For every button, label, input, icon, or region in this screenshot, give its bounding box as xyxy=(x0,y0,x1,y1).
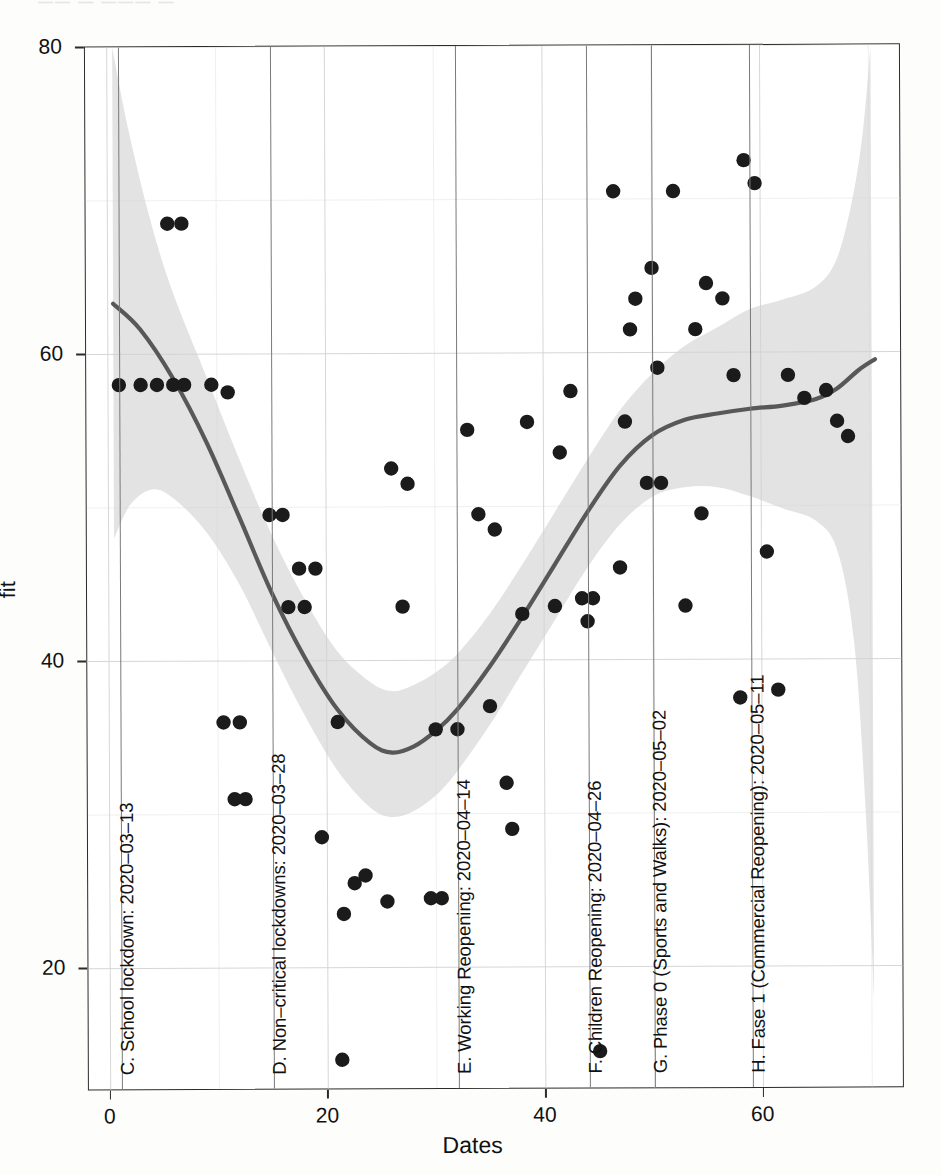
data-point xyxy=(797,391,811,405)
data-point xyxy=(380,894,394,908)
data-point xyxy=(819,383,833,397)
data-point xyxy=(384,461,398,475)
data-point xyxy=(483,699,497,713)
data-point xyxy=(488,522,502,536)
plot-area: C. School lockdown: 2020–03–13D. Non–cri… xyxy=(85,44,903,1089)
plot-svg xyxy=(85,44,903,1089)
data-point xyxy=(666,184,680,198)
chart-figure: fit Dates 20406080 0204060 C. School loc… xyxy=(0,0,941,1175)
data-points-layer xyxy=(111,152,858,1067)
data-point xyxy=(177,378,191,392)
y-tick-label: 20 xyxy=(19,956,65,980)
event-label-h: H. Fase 1 (Commercial Reopening): 2020–0… xyxy=(746,674,770,1072)
data-point xyxy=(460,423,474,437)
gridline-minor-vertical xyxy=(215,47,219,1089)
data-point xyxy=(678,598,692,612)
data-point xyxy=(233,715,247,729)
data-point xyxy=(160,216,174,230)
data-point xyxy=(220,385,234,399)
data-point xyxy=(606,184,620,198)
x-tick-label: 60 xyxy=(751,1102,774,1126)
data-point xyxy=(613,560,627,574)
x-tick-mark xyxy=(763,1088,765,1097)
y-tick-mark xyxy=(77,661,86,663)
data-point xyxy=(435,891,449,905)
y-tick-label: 40 xyxy=(18,649,64,673)
data-point xyxy=(331,715,345,729)
event-label-f: F. Children Reopening: 2020–04–26 xyxy=(583,781,606,1074)
y-tick-label: 60 xyxy=(17,342,63,366)
y-tick-mark xyxy=(76,354,85,356)
data-point xyxy=(548,599,562,613)
x-axis-title: Dates xyxy=(2,1130,941,1161)
x-tick-mark xyxy=(545,1089,547,1098)
gridline-major-vertical xyxy=(324,47,328,1090)
data-point xyxy=(395,599,409,613)
data-point xyxy=(623,322,637,336)
gridline-minor-vertical xyxy=(433,46,437,1089)
event-label-c: C. School lockdown: 2020–03–13 xyxy=(115,803,138,1076)
data-point xyxy=(563,384,577,398)
data-point xyxy=(262,508,276,522)
data-point xyxy=(238,792,252,806)
data-point xyxy=(308,561,322,575)
data-point xyxy=(335,1053,349,1067)
data-point xyxy=(771,682,785,696)
data-point xyxy=(400,477,414,491)
data-point xyxy=(654,476,668,490)
data-point xyxy=(499,776,513,790)
data-point xyxy=(174,216,188,230)
data-point xyxy=(830,414,844,428)
data-point xyxy=(733,690,747,704)
data-point xyxy=(688,322,702,336)
gridline-minor-horizontal xyxy=(86,198,902,201)
data-point xyxy=(694,506,708,520)
y-tick-label: 80 xyxy=(16,35,62,59)
data-point xyxy=(715,291,729,305)
data-point xyxy=(699,276,713,290)
data-point xyxy=(841,429,855,443)
x-tick-label: 20 xyxy=(316,1104,339,1128)
data-point xyxy=(726,368,740,382)
data-point xyxy=(133,378,147,392)
y-axis-title: fit xyxy=(0,581,21,598)
gridline-major-horizontal xyxy=(85,44,901,47)
data-point xyxy=(150,378,164,392)
y-tick-mark xyxy=(75,46,84,48)
data-point xyxy=(760,544,774,558)
data-point xyxy=(281,600,295,614)
x-tick-mark xyxy=(110,1090,112,1099)
data-point xyxy=(520,415,534,429)
data-point xyxy=(297,600,311,614)
y-tick-mark xyxy=(78,968,87,970)
plot-panel: C. School lockdown: 2020–03–13D. Non–cri… xyxy=(84,43,904,1090)
data-point xyxy=(781,368,795,382)
data-point xyxy=(553,445,567,459)
gridline-major-horizontal xyxy=(88,966,902,969)
y-axis-ticks: 20406080 xyxy=(0,0,939,2)
data-point xyxy=(471,507,485,521)
data-point xyxy=(216,715,230,729)
event-label-g: G. Phase 0 (Sports and Walks): 2020–05–0… xyxy=(648,710,671,1073)
data-point xyxy=(275,508,289,522)
grid-layer xyxy=(85,44,903,1089)
event-label-e: E. Working Reopening: 2020–04–14 xyxy=(453,779,476,1074)
data-point xyxy=(515,607,529,621)
gridline-major-vertical xyxy=(107,47,111,1089)
data-point xyxy=(628,291,642,305)
x-tick-label: 40 xyxy=(533,1103,556,1127)
x-tick-mark xyxy=(327,1090,329,1099)
event-label-d: D. Non–critical lockdowns: 2020–03–28 xyxy=(268,753,291,1074)
data-point xyxy=(505,822,519,836)
gridline-minor-horizontal xyxy=(88,812,903,815)
data-point xyxy=(618,414,632,428)
data-point xyxy=(428,722,442,736)
x-axis-ticks: 0204060 xyxy=(0,0,939,2)
data-point xyxy=(358,868,372,882)
data-point xyxy=(292,561,306,575)
data-point xyxy=(337,907,351,921)
x-tick-label: 0 xyxy=(104,1104,116,1128)
data-point xyxy=(315,830,329,844)
data-point xyxy=(204,378,218,392)
